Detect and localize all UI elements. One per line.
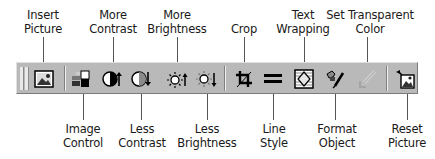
leader-line bbox=[83, 94, 84, 120]
callout-text: Text bbox=[276, 8, 329, 22]
less-contrast-icon bbox=[130, 68, 152, 90]
leader-line bbox=[207, 94, 208, 120]
callout-text: Object bbox=[317, 136, 356, 150]
callout-text: Less bbox=[118, 122, 166, 136]
callout-text: Style bbox=[260, 136, 288, 150]
more-contrast-icon bbox=[101, 68, 123, 90]
callout-text: Picture bbox=[388, 136, 426, 150]
callout-text: Brightness bbox=[147, 22, 206, 36]
image-control-button[interactable] bbox=[70, 68, 92, 90]
callout-text: Less bbox=[177, 122, 236, 136]
callout-more-brightness: More Brightness bbox=[147, 8, 206, 36]
callout-image-control: Image Control bbox=[63, 122, 103, 150]
callout-less-contrast: Less Contrast bbox=[118, 122, 166, 150]
callout-text: More bbox=[147, 8, 206, 22]
leader-line bbox=[177, 37, 178, 65]
leader-line bbox=[113, 37, 114, 65]
callout-reset-picture: Reset Picture bbox=[388, 122, 426, 150]
callout-text: Image bbox=[63, 122, 103, 136]
callout-text: Wrapping bbox=[276, 22, 329, 36]
callout-line-style: Line Style bbox=[260, 122, 288, 150]
callout-text: More bbox=[89, 8, 137, 22]
format-object-icon bbox=[324, 68, 346, 90]
crop-button[interactable] bbox=[233, 68, 255, 90]
callout-text: Crop bbox=[231, 22, 257, 36]
less-brightness-icon bbox=[195, 68, 217, 90]
less-brightness-button[interactable] bbox=[195, 68, 217, 90]
toolbar-separator bbox=[386, 66, 388, 91]
set-transparent-color-button[interactable] bbox=[356, 68, 378, 90]
leader-line bbox=[141, 94, 142, 120]
callout-more-contrast: More Contrast bbox=[89, 8, 137, 36]
callout-text-wrapping: Text Wrapping bbox=[276, 8, 329, 36]
callout-set-transparent-color: Set Transparent Color bbox=[326, 8, 414, 36]
callout-text: Contrast bbox=[118, 136, 166, 150]
less-contrast-button[interactable] bbox=[130, 68, 152, 90]
leader-line bbox=[367, 37, 368, 65]
leader-line bbox=[335, 94, 336, 120]
leader-line bbox=[43, 37, 44, 62]
reset-picture-icon bbox=[394, 68, 416, 90]
text-wrapping-button[interactable] bbox=[293, 68, 315, 90]
callout-text: Brightness bbox=[177, 136, 236, 150]
callout-less-brightness: Less Brightness bbox=[177, 122, 236, 150]
toolbar-separator bbox=[224, 66, 226, 91]
format-object-button[interactable] bbox=[324, 68, 346, 90]
leader-line bbox=[407, 94, 408, 120]
line-style-button[interactable] bbox=[262, 68, 284, 90]
toolbar-separator bbox=[64, 66, 66, 91]
callout-text: Format bbox=[317, 122, 356, 136]
callout-text: Picture bbox=[24, 22, 62, 36]
leader-line bbox=[304, 37, 305, 65]
callout-format-object: Format Object bbox=[317, 122, 356, 150]
insert-picture-button[interactable] bbox=[33, 68, 55, 90]
line-style-icon bbox=[262, 68, 284, 90]
callout-text: Insert bbox=[24, 8, 62, 22]
callout-text: Set Transparent bbox=[326, 8, 414, 22]
callout-text: Line bbox=[260, 122, 288, 136]
more-contrast-button[interactable] bbox=[101, 68, 123, 90]
toolbar-grip-handle[interactable] bbox=[20, 67, 24, 90]
toolbar-grip-handle[interactable] bbox=[25, 67, 29, 90]
callout-text: Reset bbox=[388, 122, 426, 136]
more-brightness-icon bbox=[166, 68, 188, 90]
image-control-icon bbox=[70, 68, 92, 90]
picture-toolbar bbox=[16, 62, 418, 94]
callout-crop: Crop bbox=[231, 22, 257, 36]
leader-line bbox=[273, 94, 274, 120]
reset-picture-button[interactable] bbox=[394, 68, 416, 90]
insert-picture-icon bbox=[33, 68, 55, 90]
callout-text: Control bbox=[63, 136, 103, 150]
callout-text: Color bbox=[326, 22, 414, 36]
more-brightness-button[interactable] bbox=[166, 68, 188, 90]
callout-insert-picture: Insert Picture bbox=[24, 8, 62, 36]
leader-line bbox=[244, 37, 245, 65]
set-transparent-color-icon bbox=[356, 68, 378, 90]
crop-icon bbox=[233, 68, 255, 90]
text-wrapping-icon bbox=[293, 68, 315, 90]
callout-text: Contrast bbox=[89, 22, 137, 36]
